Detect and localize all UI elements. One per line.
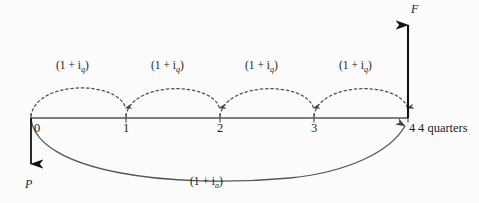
quarter-arc-group — [31, 88, 408, 116]
quarter-arc-label-0: (1 + iq) — [56, 60, 89, 72]
quarter-arc-3-4 — [314, 89, 408, 116]
factor-text-open: (1 + i — [56, 59, 81, 71]
factor-subscript: q — [364, 65, 368, 74]
quarter-arc-1-2 — [126, 89, 220, 116]
quarter-arc-label-1: (1 + iq) — [151, 60, 184, 72]
tick-label-2: 2 — [217, 122, 223, 135]
annual-arc-label: (1 + ia) — [190, 176, 223, 188]
factor-text-open: (1 + i — [190, 175, 215, 187]
factor-subscript: a — [215, 181, 219, 190]
tick-label-0: 0 — [34, 122, 40, 135]
quarter-arc-label-2: (1 + iq) — [245, 60, 278, 72]
factor-text-open: (1 + i — [245, 59, 270, 71]
factor-text-close: ) — [85, 59, 89, 71]
factor-text-open: (1 + i — [339, 59, 364, 71]
factor-text-close: ) — [274, 59, 278, 71]
future-worth-label: F — [411, 3, 418, 15]
tick-label-1: 1 — [123, 122, 129, 135]
factor-text-close: ) — [368, 59, 372, 71]
factor-subscript: q — [81, 65, 85, 74]
quarter-arc-0-1 — [31, 88, 126, 116]
factor-text-close: ) — [180, 59, 184, 71]
factor-text-open: (1 + i — [151, 59, 176, 71]
tick-label-4: 4 — [409, 122, 415, 135]
factor-subscript: q — [270, 65, 274, 74]
present-worth-label: P — [25, 178, 32, 190]
axis-units-label: 4 quarters — [418, 122, 468, 135]
quarter-arc-2-3 — [220, 89, 314, 116]
quarter-arc-label-3: (1 + iq) — [339, 60, 372, 72]
diagram-canvas — [0, 0, 479, 203]
factor-text-close: ) — [219, 175, 223, 187]
tick-label-3: 3 — [311, 122, 317, 135]
factor-subscript: q — [176, 65, 180, 74]
cash-flow-diagram: 0 1 2 3 4 4 quarters F P (1 + iq) (1 + i… — [0, 0, 479, 203]
